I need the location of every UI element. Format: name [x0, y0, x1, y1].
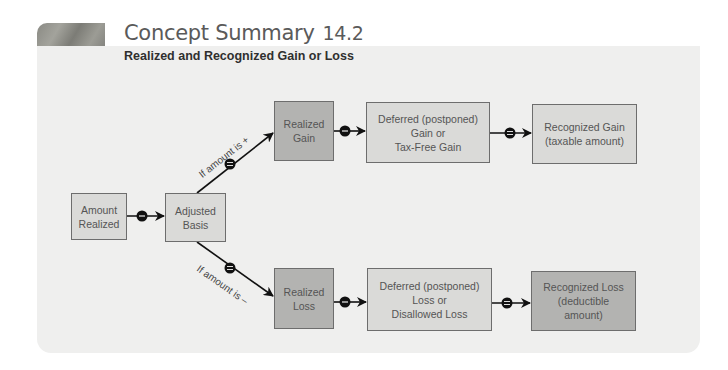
equals-operator-icon	[225, 263, 236, 274]
amount-realized-label: Amount Realized	[79, 203, 120, 231]
adjusted-basis-node: Adjusted Basis	[165, 193, 226, 242]
equals-operator-icon	[505, 128, 516, 139]
realized-loss-node: Realized Loss	[274, 268, 334, 329]
minus-operator-icon	[340, 297, 351, 308]
recognized-gain-label: Recognized Gain (taxable amount)	[544, 120, 625, 148]
amount-realized-node: Amount Realized	[71, 193, 127, 240]
deferred-loss-label: Deferred (postponed) Loss or Disallowed …	[380, 279, 480, 321]
recognized-gain-node: Recognized Gain (taxable amount)	[532, 104, 637, 164]
realized-loss-label: Realized Loss	[284, 285, 325, 313]
minus-operator-icon	[137, 211, 148, 222]
recognized-loss-label: Recognized Loss (deductible amount)	[543, 280, 624, 322]
realized-gain-label: Realized Gain	[284, 117, 325, 145]
adjusted-basis-label: Adjusted Basis	[175, 204, 216, 232]
realized-gain-node: Realized Gain	[274, 101, 334, 161]
deferred-gain-label: Deferred (postponed) Gain or Tax-Free Ga…	[378, 112, 478, 154]
deferred-gain-node: Deferred (postponed) Gain or Tax-Free Ga…	[366, 102, 490, 163]
minus-operator-icon	[340, 126, 351, 137]
equals-operator-icon	[502, 298, 513, 309]
deferred-loss-node: Deferred (postponed) Loss or Disallowed …	[367, 268, 492, 331]
recognized-loss-node: Recognized Loss (deductible amount)	[531, 271, 636, 331]
